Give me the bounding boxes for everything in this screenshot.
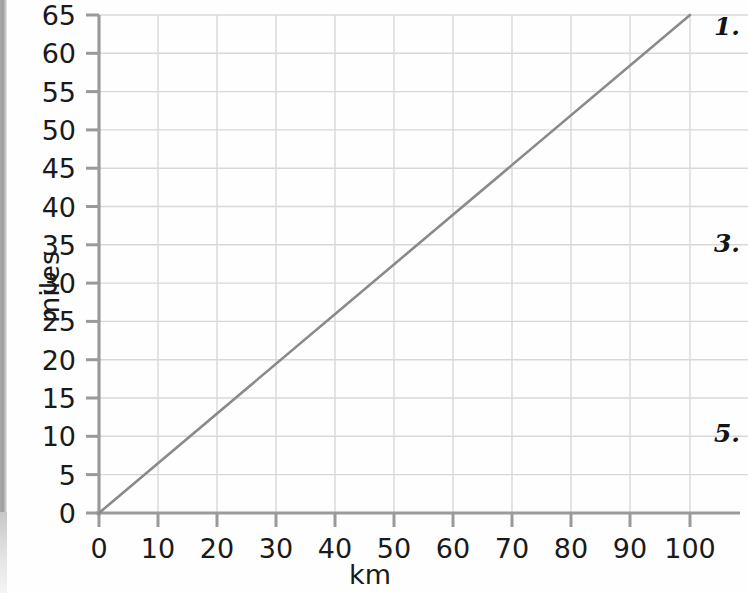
x-tick-label: 20 <box>200 535 234 562</box>
y-tick-label: 40 <box>18 194 76 221</box>
page-canvas: 65 60 55 50 45 40 35 30 25 20 15 10 5 0 … <box>0 0 748 593</box>
y-tick-label: 45 <box>18 155 76 182</box>
x-tick-label: 0 <box>90 535 107 562</box>
x-tick-label: 60 <box>436 535 470 562</box>
margin-question-number: 3. <box>714 231 740 256</box>
x-axis-title: km <box>349 561 391 588</box>
x-tick-label: 70 <box>495 535 529 562</box>
x-tick-label: 100 <box>664 535 716 562</box>
y-axis-ticks <box>86 15 99 513</box>
x-tick-label: 90 <box>613 535 647 562</box>
y-tick-label: 5 <box>18 462 76 489</box>
y-tick-label: 0 <box>18 500 76 527</box>
x-tick-label: 30 <box>259 535 293 562</box>
margin-question-number: 5. <box>714 421 740 446</box>
y-tick-label: 10 <box>18 423 76 450</box>
y-tick-label: 65 <box>18 2 76 29</box>
y-axis-title: miles <box>36 251 63 323</box>
x-tick-label: 10 <box>141 535 175 562</box>
x-tick-label: 50 <box>377 535 411 562</box>
y-tick-label: 60 <box>18 40 76 67</box>
conversion-graph <box>0 0 748 593</box>
y-tick-label: 20 <box>18 347 76 374</box>
x-tick-label: 80 <box>554 535 588 562</box>
x-axis-ticks <box>99 513 690 527</box>
x-tick-label: 40 <box>318 535 352 562</box>
margin-question-number: 1. <box>714 14 740 39</box>
grid-lines <box>99 15 748 513</box>
y-tick-label: 15 <box>18 385 76 412</box>
y-tick-label: 50 <box>18 117 76 144</box>
y-tick-label: 55 <box>18 79 76 106</box>
axis-lines <box>96 15 740 516</box>
